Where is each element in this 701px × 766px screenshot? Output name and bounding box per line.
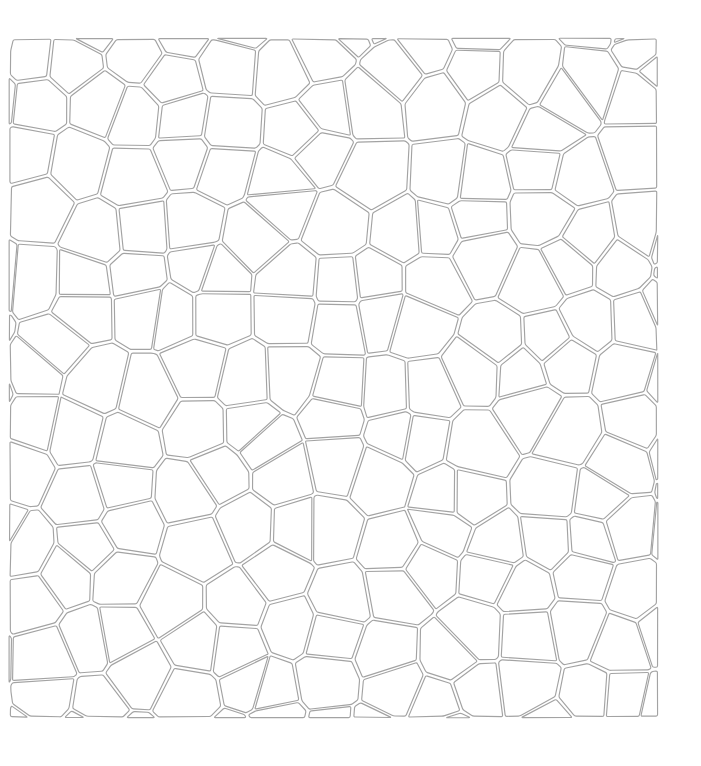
mosaic-cell bbox=[10, 39, 50, 80]
mosaic-cell bbox=[295, 657, 359, 709]
mosaic-cell bbox=[654, 267, 658, 278]
voronoi-mosaic-svg bbox=[0, 0, 701, 766]
mosaic-cell bbox=[199, 40, 256, 96]
mosaic-cell bbox=[364, 355, 407, 418]
mosaic-cell bbox=[410, 139, 465, 204]
mosaic-cell bbox=[254, 295, 315, 343]
mosaic-cell bbox=[311, 304, 365, 355]
mosaic-cell bbox=[205, 96, 263, 148]
mosaic-cell bbox=[119, 201, 167, 253]
mosaic-cell bbox=[316, 257, 357, 302]
mosaic-canvas bbox=[0, 0, 701, 766]
mosaic-cell bbox=[510, 457, 577, 517]
mosaic-cell bbox=[9, 636, 11, 682]
mosaic-cell bbox=[501, 612, 556, 661]
mosaic-cell bbox=[506, 150, 560, 190]
mosaic-cell bbox=[196, 294, 251, 345]
mosaic-cell bbox=[452, 38, 510, 49]
